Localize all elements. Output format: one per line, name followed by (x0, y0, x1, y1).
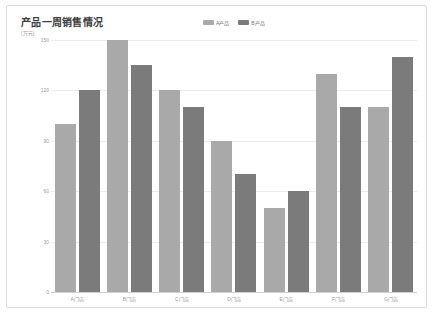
bar[interactable] (107, 40, 128, 292)
bar-group-5 (312, 40, 364, 292)
plot-area (51, 40, 417, 292)
y-tick-label-30: 30 (27, 239, 49, 245)
bar-group-2 (156, 40, 208, 292)
legend-swatch-icon (203, 20, 214, 25)
x-tick-label-6: G门店 (365, 295, 417, 302)
bar[interactable] (211, 141, 232, 292)
y-tick-label-120: 120 (27, 87, 49, 93)
legend-label: A产品 (216, 19, 229, 26)
bar[interactable] (79, 90, 100, 292)
bar[interactable] (340, 107, 361, 292)
legend-item-1[interactable]: B产品 (238, 19, 264, 26)
x-tick-label-0: A门店 (51, 295, 103, 302)
bar[interactable] (131, 65, 152, 292)
bar[interactable] (316, 74, 337, 292)
x-tick-label-2: C门店 (156, 295, 208, 302)
legend-label: B产品 (251, 19, 264, 26)
y-axis: 0306090120150 (23, 40, 49, 292)
x-tick-label-1: B门店 (103, 295, 155, 302)
gridline-0 (51, 292, 417, 293)
y-axis-unit-label: (万元) (21, 29, 34, 36)
bar[interactable] (159, 90, 180, 292)
legend-item-0[interactable]: A产品 (203, 19, 229, 26)
bar[interactable] (235, 174, 256, 292)
y-tick-label-90: 90 (27, 138, 49, 144)
bar-group-6 (365, 40, 417, 292)
bar-series-container (51, 40, 417, 292)
x-axis: A门店B门店C门店D门店E门店F门店G门店 (51, 295, 417, 307)
bar[interactable] (264, 208, 285, 292)
bar[interactable] (368, 107, 389, 292)
bar-group-0 (51, 40, 103, 292)
legend-swatch-icon (238, 20, 249, 25)
bar-group-3 (208, 40, 260, 292)
x-tick-label-4: E门店 (260, 295, 312, 302)
bar[interactable] (183, 107, 204, 292)
y-tick-label-60: 60 (27, 188, 49, 194)
bar-group-1 (103, 40, 155, 292)
x-tick-label-5: F门店 (312, 295, 364, 302)
chart-title: 产品一周销售情况 (21, 14, 103, 29)
bar[interactable] (288, 191, 309, 292)
chart-legend: A产品B产品 (203, 19, 265, 26)
y-tick-label-150: 150 (27, 37, 49, 43)
bar[interactable] (55, 124, 76, 292)
bar[interactable] (392, 57, 413, 292)
chart-card: 产品一周销售情况 (万元) A产品B产品 0306090120150 A门店B门… (6, 5, 427, 308)
y-tick-label-0: 0 (27, 289, 49, 295)
bar-group-4 (260, 40, 312, 292)
x-tick-label-3: D门店 (208, 295, 260, 302)
